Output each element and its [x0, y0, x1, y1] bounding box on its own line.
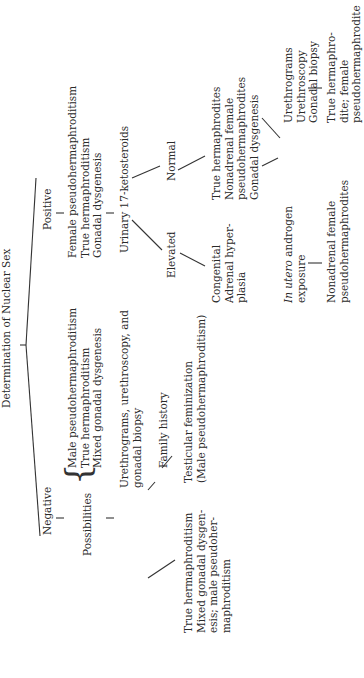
possibilities-label: Possibilities [81, 493, 94, 556]
ketosteroids-test: Urinary 17-ketosteroids [118, 126, 131, 253]
negative-possibilities: Male pseudohermaphroditismTrue hermaphro… [66, 308, 104, 468]
in-utero-result: Nonadrenal femalepseudohermaphrodites [325, 180, 350, 303]
family-history-label: Family history [157, 392, 170, 468]
other-tests-result: True hermaphro-dite; femalepseudohermaph… [325, 5, 363, 123]
negative-test-result: True hermaphroditismMixed gonadal dysgen… [182, 510, 232, 633]
flowchart: Determination of Nuclear Sex Negative Po… [0, 0, 364, 678]
elevated-result: CongenitalAdrenal hyper-plasia [210, 224, 248, 303]
negative-test: Urethrograms, urethroscopy, andgonadal b… [118, 310, 143, 488]
in-utero-label: In utero androgenexposure [282, 206, 307, 303]
normal-result: True hermaphroditesNonadrenal femalepseu… [210, 77, 260, 200]
other-tests: UrethrogramsUrethroscopyGonadal biopsy [282, 41, 320, 123]
family-history-result: Testicular feminization(Male pseudoherma… [182, 315, 207, 483]
elevated-label: Elevated [165, 231, 178, 278]
diagram-title: Determination of Nuclear Sex [0, 288, 13, 408]
negative-label: Negative [41, 487, 54, 535]
positive-possibilities: Female pseudohermaphroditismTrue hermaph… [66, 86, 104, 258]
normal-label: Normal [165, 141, 178, 181]
positive-label: Positive [41, 189, 54, 230]
